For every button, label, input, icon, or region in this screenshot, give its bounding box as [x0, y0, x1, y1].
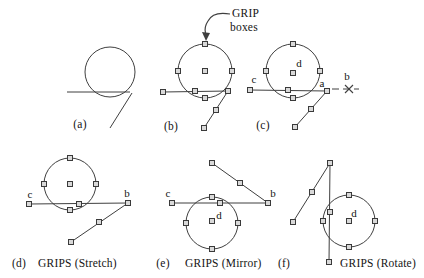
figure-f: d(f)GRIPS (Rotate): [278, 161, 416, 271]
grip-box: [69, 240, 74, 245]
grip-box: [291, 96, 296, 101]
grip-boxes-callout: GRIPboxes: [202, 7, 259, 41]
grip-box: [184, 221, 189, 226]
point-label: d: [216, 209, 222, 221]
grip-box: [68, 156, 73, 161]
figure-a: (a): [67, 47, 135, 131]
grip-box: [97, 220, 102, 225]
grip-box: [291, 71, 296, 76]
grip-box: [347, 219, 352, 224]
figure-d: cb(d)GRIPS (Stretch): [12, 156, 131, 271]
grip-box: [291, 220, 296, 225]
grip-box: [176, 69, 181, 74]
grips-diagram-page: (a)(b)cdab(c)cb(d)GRIPS (Stretch)cdb(e)G…: [0, 0, 424, 278]
grip-box: [203, 42, 208, 47]
grip-box: [230, 69, 235, 74]
grip-box: [328, 161, 333, 166]
grip-box: [68, 182, 73, 187]
grip-box: [347, 245, 352, 250]
point-label: c: [252, 73, 257, 85]
grips-diagram: (a)(b)cdab(c)cb(d)GRIPS (Stretch)cdb(e)G…: [0, 0, 424, 278]
figure-c: cdab(c): [248, 42, 360, 133]
grip-box: [27, 202, 32, 207]
grip-box: [94, 182, 99, 187]
grip-box: [286, 88, 291, 93]
grip-box: [210, 195, 215, 200]
point-label: b: [270, 187, 276, 199]
callout-arrowhead-icon: [202, 32, 210, 41]
figure-e: cdb(e)GRIPS (Mirror): [156, 161, 276, 271]
grip-box: [68, 208, 73, 213]
grip-box: [203, 96, 208, 101]
grip-box: [170, 201, 175, 206]
grip-box: [328, 210, 333, 215]
figure-title: GRIPS (Mirror): [185, 257, 262, 270]
grip-box: [291, 42, 296, 47]
grip-box: [321, 219, 326, 224]
grip-box: [309, 107, 314, 112]
grip-box: [77, 202, 82, 207]
grip-box: [238, 181, 243, 186]
figure-title: GRIPS (Rotate): [340, 257, 416, 270]
grip-box: [318, 69, 323, 74]
point-label: d: [296, 57, 302, 69]
grip-box: [327, 260, 332, 265]
grip-box: [193, 89, 198, 94]
grip-box: [126, 201, 131, 206]
point-label: d: [351, 207, 357, 219]
grip-box: [236, 221, 241, 226]
grip-box: [266, 201, 271, 206]
grip-box: [325, 89, 330, 94]
grip-box: [161, 90, 166, 95]
grip-box: [210, 219, 215, 224]
grip-box: [42, 182, 47, 187]
callout-arrow: [205, 13, 230, 33]
grip-box: [218, 201, 223, 206]
circle-shape: [85, 47, 135, 97]
figure-title: GRIPS (Stretch): [38, 257, 117, 270]
figure-caption: (c): [256, 119, 269, 132]
figure-caption: (e): [156, 257, 169, 270]
grip-box: [293, 125, 298, 130]
grip-box: [310, 190, 315, 195]
point-label: b: [124, 187, 130, 199]
grip-box: [248, 88, 253, 93]
point-label: a: [320, 77, 325, 89]
callout-text-line1: GRIP: [232, 7, 259, 19]
figure-caption: (f): [278, 257, 290, 270]
grip-box: [202, 126, 207, 131]
grip-box: [226, 89, 231, 94]
figure-caption: (a): [73, 118, 86, 131]
figure-caption: (b): [164, 120, 178, 133]
figure-b: (b): [161, 42, 235, 134]
point-label: b: [344, 70, 350, 82]
point-label: c: [28, 188, 33, 200]
grip-box: [210, 161, 215, 166]
point-label: c: [166, 187, 171, 199]
grip-box: [373, 219, 378, 224]
grip-box: [264, 69, 269, 74]
line-segment: [110, 93, 132, 128]
grip-box: [203, 69, 208, 74]
callout-text-line2: boxes: [230, 21, 258, 33]
grip-box: [210, 247, 215, 252]
figure-caption: (d): [12, 257, 26, 270]
grip-box: [347, 193, 352, 198]
grip-box: [214, 108, 219, 113]
